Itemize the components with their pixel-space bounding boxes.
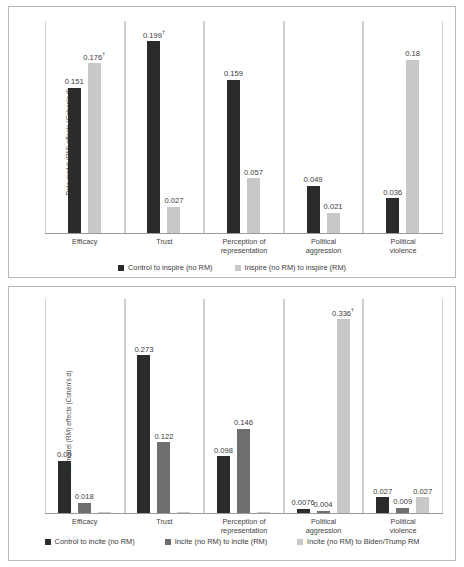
bar[interactable] [217,456,230,513]
bar-slot: 0.009 [396,299,409,513]
legend-bottom: Control to incite (no RM)Incite (no RM) … [9,537,455,546]
chart-top: Role model (RM) effects (Cohen's d) 0.15… [9,7,455,277]
legend-swatch-icon [45,539,51,545]
legend-item[interactable]: Control to inspire (no RM) [118,263,213,272]
x-axis-line-top [45,233,443,234]
x-axis-line-bottom [45,513,443,514]
legend-label: Inspire (no RM) to inspire (RM) [245,263,346,272]
bar-slot: 0.027 [376,299,389,513]
x-tick-label-line: Trust [125,237,205,246]
bar-slot: 0.0076 [297,299,310,513]
legend-label: Control to incite (no RM) [55,537,135,546]
bar-value-label: 0.151 [65,77,84,86]
bar-slot: 0.146 [237,299,250,513]
bar-group: 0.199†0.027 [125,21,205,233]
bar-value-label: 0.199† [143,29,165,40]
bar-group: 0.1590.057 [204,21,284,233]
bar[interactable] [416,497,429,513]
plot-area-top: 0.1510.176†0.199†0.0270.1590.0570.0490.0… [45,21,443,233]
bar-cluster: 0.1510.176† [45,21,124,233]
bar-value-label: 0.0076 [291,498,314,507]
bar-slot: 0.159 [227,21,240,233]
bar-value-label: 0.009 [393,497,412,506]
x-tick-label-line: Trust [125,517,205,526]
x-tick-label-line: representation [204,526,284,535]
bar[interactable] [386,198,399,233]
x-tick-label: Politicalviolence [363,517,443,536]
x-tick-label: Efficacy [45,237,125,256]
legend-item[interactable]: Inspire (no RM) to inspire (RM) [235,263,346,272]
bar-group: 0.0490.021 [284,21,364,233]
x-tick-label-line: violence [363,526,443,535]
bar-value-label: 0.336† [332,307,354,318]
bar[interactable] [157,442,170,513]
bar-groups-top: 0.1510.176†0.199†0.0270.1590.0570.0490.0… [45,21,443,233]
chart-panel-top: Role model (RM) effects (Cohen's d) 0.15… [8,6,456,278]
bar[interactable] [327,213,340,233]
bar-slot: 0.049 [307,21,320,233]
bar-cluster: 0.090.018 [45,299,124,513]
bar-slot: 0.09 [58,299,71,513]
bar-cluster: 0.199†0.027 [125,21,204,233]
bar-value-label: 0.159 [224,69,243,78]
x-axis-tick-labels-top: EfficacyTrustPerception ofrepresentation… [45,237,443,256]
bar-value-label: 0.027 [164,196,183,205]
bar[interactable] [58,461,71,513]
bar-cluster: 0.2730.122 [125,299,204,513]
bar-slot: 0.027 [167,21,180,233]
legend-item[interactable]: Incite (no RM) to incite (RM) [165,537,267,546]
legend-swatch-icon [297,539,303,545]
x-tick-label-line: Political [284,517,364,526]
bar[interactable] [237,429,250,513]
bar-slot: 0.18 [406,21,419,233]
bar[interactable] [167,207,180,233]
bar-slot: 0.027 [416,299,429,513]
legend-item[interactable]: Control to incite (no RM) [45,537,135,546]
bar[interactable] [247,178,260,233]
bar-cluster: 0.00760.0040.336† [284,299,363,513]
bar[interactable] [406,60,419,233]
bar-group: 0.0360.18 [363,21,443,233]
legend-swatch-icon [165,539,171,545]
bar[interactable] [78,503,91,513]
x-axis-tick-labels-bottom: EfficacyTrustPerception ofrepresentation… [45,517,443,536]
x-tick-label: Politicalviolence [363,237,443,256]
bar-value-label: 0.09 [57,450,72,459]
bar-slot: 0.098 [217,299,230,513]
bar[interactable] [227,80,240,233]
bar-value-label: 0.027 [413,487,432,496]
x-tick-label: Perception ofrepresentation [204,237,284,256]
bar[interactable] [68,88,81,234]
bar-group: 0.0980.146 [204,299,284,513]
bar-value-label: 0.098 [214,446,233,455]
bar-value-label: 0.021 [324,202,343,211]
figure-container: Role model (RM) effects (Cohen's d) 0.15… [0,0,464,567]
bar-value-label: 0.176† [83,51,105,62]
bar-slot: 0.057 [247,21,260,233]
bar[interactable] [337,319,350,513]
bar-slot: 0.199† [147,21,160,233]
bar-slot: 0.018 [78,299,91,513]
bar-value-label: 0.049 [304,175,323,184]
bar[interactable] [88,63,101,233]
bar-slot: 0.021 [327,21,340,233]
bar-value-label: 0.036 [383,188,402,197]
x-tick-label-line: Perception of [204,517,284,526]
legend-top: Control to inspire (no RM)Inspire (no RM… [9,263,455,272]
bar[interactable] [137,355,150,513]
x-tick-label: Trust [125,517,205,536]
bar-value-label: 0.122 [154,432,173,441]
bar[interactable] [376,497,389,513]
bar-slot [98,299,111,513]
bar-cluster: 0.0980.146 [204,299,283,513]
x-tick-label-line: Efficacy [45,237,125,246]
bar[interactable] [307,186,320,233]
bar-group: 0.1510.176† [45,21,125,233]
bar[interactable] [147,41,160,233]
bar-group: 0.00760.0040.336† [284,299,364,513]
legend-item[interactable]: Incite (no RM) to Biden/Trump RM [297,537,419,546]
bar-cluster: 0.0360.18 [363,21,442,233]
x-tick-label-line: Political [363,517,443,526]
bar-slot [257,299,270,513]
legend-swatch-icon [118,265,124,271]
